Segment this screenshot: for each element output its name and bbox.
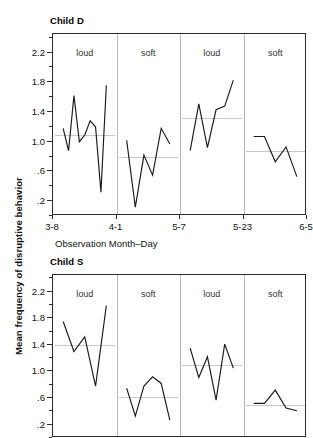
y-tick-label: 1.0 bbox=[32, 365, 45, 376]
y-tick-label: 1.8 bbox=[32, 312, 45, 323]
chart-title-child-d: Child D bbox=[50, 15, 84, 26]
x-tick-label: 5-7 bbox=[172, 221, 186, 232]
y-tick-label: 1.8 bbox=[32, 76, 45, 87]
x-axis-title-child-d: Observation Month–Day bbox=[55, 238, 157, 249]
plot-area-child-s: loudsoftloudsoft bbox=[52, 274, 306, 437]
x-tick-label: 4-1 bbox=[109, 221, 123, 232]
y-tick-label: 1.4 bbox=[32, 338, 45, 349]
y-tick-label: 1.0 bbox=[32, 135, 45, 146]
x-tick bbox=[179, 215, 180, 219]
y-tick-label: .6 bbox=[37, 165, 45, 176]
x-tick bbox=[52, 215, 53, 219]
data-series-soft-3 bbox=[53, 275, 306, 437]
y-tick-label: .2 bbox=[37, 418, 45, 429]
plot-area-child-d: loudsoftloudsoft bbox=[52, 33, 306, 215]
y-axis-child-s: .2.61.01.41.82.2 bbox=[0, 274, 52, 437]
x-tick-label: 6-5 bbox=[299, 221, 313, 232]
y-tick-label: .6 bbox=[37, 392, 45, 403]
y-tick-label: 2.2 bbox=[32, 285, 45, 296]
y-tick-label: 2.2 bbox=[32, 46, 45, 57]
x-tick bbox=[243, 215, 244, 219]
y-axis-child-d: .2.61.01.41.82.2 bbox=[0, 33, 52, 215]
x-tick-label: 5-23 bbox=[233, 221, 252, 232]
y-tick-label: 1.4 bbox=[32, 106, 45, 117]
data-series-soft-3 bbox=[53, 34, 306, 215]
x-tick bbox=[116, 215, 117, 219]
y-tick-label: .2 bbox=[37, 195, 45, 206]
x-tick-label: 3-8 bbox=[45, 221, 59, 232]
x-tick bbox=[306, 215, 307, 219]
chart-title-child-s: Child S bbox=[50, 256, 83, 267]
